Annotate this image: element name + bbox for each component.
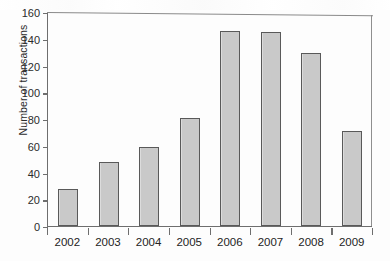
x-axis-tick [372,228,373,235]
x-axis-label-2007: 2007 [250,236,291,248]
x-axis-tick [250,228,251,235]
x-axis-tick [210,228,211,235]
bar-cell [332,13,373,226]
y-axis-tick-label: 80 [28,114,40,126]
y-axis-tick-label: 0 [34,221,40,233]
x-axis-label-2006: 2006 [210,236,251,248]
bar-cell [170,13,211,226]
bar-2005 [180,118,200,226]
bar-2002 [58,189,78,226]
x-axis-label-2002: 2002 [47,236,88,248]
bar-2009 [342,131,362,226]
bar-series [48,13,372,226]
bar-cell [89,13,130,226]
x-axis-ticks [47,228,372,236]
y-axis-tick-label: 40 [28,168,40,180]
y-axis-tick-label: 60 [28,141,40,153]
x-axis-tick [47,228,48,235]
y-axis-tick-label: 140 [22,34,40,46]
x-axis-label-2009: 2009 [331,236,372,248]
y-axis-tick-label: 20 [28,194,40,206]
x-axis-tick [331,228,332,235]
y-axis-tick-label: 100 [22,87,40,99]
x-axis-labels: 20022003200420052006200720082009 [47,236,372,248]
bar-2004 [139,147,159,226]
x-axis-label-2003: 2003 [88,236,129,248]
bar-cell [129,13,170,226]
x-axis-tick [291,228,292,235]
x-axis-tick [88,228,89,235]
x-axis-tick [169,228,170,235]
bar-cell [48,13,89,226]
bar-cell [291,13,332,226]
y-axis-tick-label: 160 [22,7,40,19]
plot-area: 020406080100120140160 [47,13,372,227]
bar-2006 [220,31,240,226]
bar-cell [210,13,251,226]
x-axis-label-2008: 2008 [291,236,332,248]
bar-chart: Number of transactions 02040608010012014… [0,0,390,261]
bar-2007 [261,32,281,226]
bar-2008 [301,53,321,226]
x-axis-label-2005: 2005 [169,236,210,248]
bar-cell [251,13,292,226]
x-axis-label-2004: 2004 [128,236,169,248]
y-axis-tick-label: 120 [22,61,40,73]
scan-artifact-band [0,0,390,10]
bar-2003 [99,162,119,226]
x-axis-tick [128,228,129,235]
